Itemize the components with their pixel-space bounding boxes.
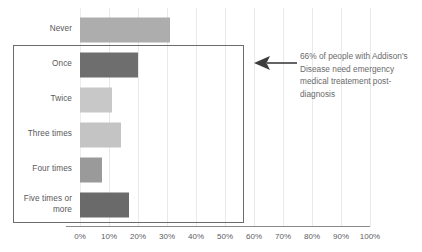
bar <box>80 192 129 217</box>
bar-row: Four times <box>0 152 422 187</box>
bar-row: Never <box>0 12 422 47</box>
bar-row: Five times or more <box>0 187 422 222</box>
annotation-text: 66% of people with Addison's Disease nee… <box>300 50 418 100</box>
bar <box>80 87 112 112</box>
x-tick-label: 50% <box>217 232 233 241</box>
callout-arrow-icon <box>253 55 298 71</box>
x-tick-label: 20% <box>130 232 146 241</box>
x-tick-label: 70% <box>275 232 291 241</box>
x-tick-label: 40% <box>188 232 204 241</box>
x-tick-label: 90% <box>333 232 349 241</box>
category-label: Three times <box>6 117 72 152</box>
category-label: Never <box>6 12 72 47</box>
x-tick-label: 30% <box>159 232 175 241</box>
x-tick-label: 0% <box>74 232 86 241</box>
bar-row: Three times <box>0 117 422 152</box>
bar <box>80 157 102 182</box>
category-label: Twice <box>6 82 72 117</box>
category-label: Once <box>6 47 72 82</box>
x-tick-label: 100% <box>360 232 380 241</box>
bar-chart: NeverOnceTwiceThree timesFour timesFive … <box>0 0 422 252</box>
x-axis-line <box>66 226 370 227</box>
category-label: Five times or more <box>6 187 72 222</box>
bar <box>80 17 170 42</box>
x-tick-label: 60% <box>246 232 262 241</box>
x-tick-label: 80% <box>304 232 320 241</box>
bar <box>80 122 121 147</box>
bar <box>80 52 138 77</box>
category-label: Four times <box>6 152 72 187</box>
x-tick-label: 10% <box>101 232 117 241</box>
